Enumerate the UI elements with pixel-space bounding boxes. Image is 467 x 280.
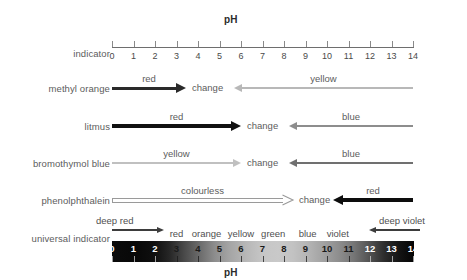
ph-scale-tick — [220, 41, 221, 47]
ph-scale-tick — [134, 41, 135, 47]
universal-indicator-deep-violet-label: deep violet — [379, 215, 425, 226]
bromothymol_blue-left-arrow-head — [233, 159, 241, 167]
ph-scale-tick — [155, 41, 156, 47]
ph-scale-axis — [112, 47, 414, 48]
bromothymol_blue-right-arrow-head — [289, 159, 297, 167]
universal-indicator-bar-number: 6 — [232, 243, 250, 254]
universal-indicator-bar-number: 3 — [168, 243, 186, 254]
ph-scale-tick — [284, 41, 285, 47]
methyl_orange-left-arrow-line — [112, 87, 176, 90]
bromothymol_blue-right-arrow-line — [297, 162, 413, 165]
ph-scale-tick — [306, 41, 307, 47]
bromothymol_blue-change-label: change — [247, 157, 278, 168]
universal-indicator-bar-number: 2 — [146, 243, 164, 254]
row-label-methyl-orange: methyl orange — [0, 83, 110, 94]
phenolphthalein-right-arrow-line — [343, 198, 413, 201]
litmus-left-arrow-line — [112, 124, 231, 127]
phenolphthalein-change-label: change — [299, 194, 330, 205]
universal-indicator-bar-tick — [370, 256, 371, 262]
ph-scale-tick — [413, 41, 414, 47]
universal-indicator-deep-red-arrow-line — [112, 229, 157, 230]
litmus-right-arrow-line — [297, 125, 413, 127]
universal-indicator-bar-tick — [284, 256, 285, 262]
ph-scale-tick — [177, 41, 178, 47]
ph-scale-tick-label: 4 — [189, 51, 207, 61]
universal-indicator-bar-tick — [306, 256, 307, 262]
universal-indicator-color-label: orange — [192, 228, 222, 239]
ph-scale-tick — [392, 41, 393, 47]
universal-indicator-color-label: violet — [327, 228, 349, 239]
ph-scale-tick-label: 0 — [103, 51, 121, 61]
universal-indicator-bar-tick — [220, 256, 221, 262]
row-label-phenolphthalein: phenolphthalein — [0, 195, 110, 206]
universal-indicator-deep-violet-arrow-line — [376, 229, 420, 230]
litmus-right-color-label: blue — [342, 111, 360, 122]
litmus-left-color-label: red — [170, 111, 184, 122]
row-label-indicator: indicator — [0, 48, 110, 59]
ph-scale-tick — [327, 41, 328, 47]
row-label-bromothymol-blue: bromothymol blue — [0, 158, 110, 169]
universal-indicator-bar-number: 13 — [383, 243, 401, 254]
methyl_orange-right-arrow-head — [234, 84, 242, 92]
ph-scale-tick — [349, 41, 350, 47]
universal-indicator-color-label: red — [170, 228, 184, 239]
methyl_orange-left-color-label: red — [142, 73, 156, 84]
universal-indicator-bar-number: 7 — [254, 243, 272, 254]
ph-scale-tick-label: 6 — [232, 51, 250, 61]
universal-indicator-color-label: yellow — [228, 228, 254, 239]
ph-scale-tick-label: 8 — [275, 51, 293, 61]
ph-scale-tick — [263, 41, 264, 47]
ph-scale-tick-label: 7 — [254, 51, 272, 61]
ph-scale-tick-label: 12 — [361, 51, 379, 61]
row-label-universal-indicator: universal indicator — [0, 233, 110, 244]
phenolphthalein-right-color-label: red — [366, 185, 380, 196]
ph-scale-tick-label: 9 — [297, 51, 315, 61]
ph-scale-tick-label: 5 — [211, 51, 229, 61]
universal-indicator-bar-tick — [198, 256, 199, 262]
litmus-right-arrow-head — [289, 122, 297, 130]
universal-indicator-bar-number: 1 — [125, 243, 143, 254]
phenolphthalein-left-color-label: colourless — [181, 185, 224, 196]
universal-indicator-bar-tick — [177, 256, 178, 262]
ph-indicator-diagram: pHindicator01234567891011121314methyl or… — [0, 0, 467, 280]
universal-indicator-bar-number: 0 — [103, 243, 121, 254]
universal-indicator-bar-tick — [263, 256, 264, 262]
ph-scale-tick — [370, 41, 371, 47]
universal-indicator-bar-number: 9 — [297, 243, 315, 254]
universal-indicator-deep-red-label: deep red — [96, 215, 134, 226]
universal-indicator-bar-number: 14 — [404, 243, 422, 254]
ph-scale-tick — [198, 41, 199, 47]
phenolphthalein-left-arrow-line — [112, 198, 283, 203]
methyl_orange-right-arrow-line — [242, 87, 413, 89]
universal-indicator-bar-tick — [413, 256, 414, 262]
ph-scale-tick-label: 11 — [340, 51, 358, 61]
universal-indicator-bar-tick — [155, 256, 156, 262]
universal-indicator-bar-number: 8 — [275, 243, 293, 254]
universal-indicator-bar-tick — [112, 256, 113, 262]
ph-scale-tick-label: 13 — [383, 51, 401, 61]
bromothymol_blue-left-color-label: yellow — [163, 148, 189, 159]
methyl_orange-change-label: change — [192, 82, 223, 93]
universal-indicator-deep-violet-arrow-head — [369, 227, 376, 233]
ph-scale-tick-label: 14 — [404, 51, 422, 61]
universal-indicator-bar-number: 10 — [318, 243, 336, 254]
page-title-ph-top: pH — [224, 14, 238, 25]
universal-indicator-bar-tick — [349, 256, 350, 262]
bromothymol_blue-left-arrow-line — [112, 162, 233, 164]
phenolphthalein-left-arrow-cap — [112, 198, 113, 203]
ph-scale-tick-label: 2 — [146, 51, 164, 61]
bromothymol_blue-right-color-label: blue — [342, 148, 360, 159]
phenolphthalein-left-arrow-head — [282, 194, 295, 206]
ph-scale-tick-label: 10 — [318, 51, 336, 61]
methyl_orange-left-arrow-head — [176, 83, 186, 93]
methyl_orange-right-color-label: yellow — [310, 73, 336, 84]
universal-indicator-bar-tick — [134, 256, 135, 262]
universal-indicator-color-label: blue — [299, 228, 317, 239]
row-label-litmus: litmus — [0, 121, 110, 132]
universal-indicator-bar-tick — [241, 256, 242, 262]
universal-indicator-color-label: green — [261, 228, 285, 239]
phenolphthalein-right-arrow-head — [333, 195, 343, 205]
ph-scale-tick-label: 3 — [168, 51, 186, 61]
universal-indicator-bar-tick — [327, 256, 328, 262]
universal-indicator-bar-number: 11 — [340, 243, 358, 254]
